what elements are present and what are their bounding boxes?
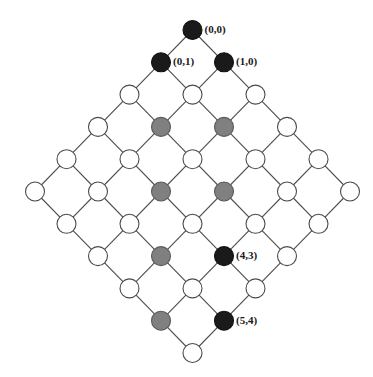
lattice-node[interactable] <box>215 182 234 201</box>
lattice-node[interactable] <box>120 214 139 233</box>
lattice-node-54[interactable] <box>215 311 234 330</box>
lattice-node-10[interactable] <box>215 53 234 72</box>
lattice-node[interactable] <box>120 150 139 169</box>
lattice-node[interactable] <box>89 117 108 136</box>
lattice-node[interactable] <box>89 182 108 201</box>
lattice-node[interactable] <box>183 214 202 233</box>
lattice-node[interactable] <box>152 117 171 136</box>
node-label: (1,0) <box>236 55 257 68</box>
lattice-node[interactable] <box>120 279 139 298</box>
lattice-node[interactable] <box>152 182 171 201</box>
node-label: (4,3) <box>236 249 257 262</box>
lattice-node-01[interactable] <box>152 53 171 72</box>
lattice-node[interactable] <box>120 85 139 104</box>
lattice-node[interactable] <box>278 117 297 136</box>
node-label: (0,1) <box>173 55 194 68</box>
lattice-canvas: (0,0)(0,1)(1,0)(4,3)(5,4) <box>0 0 373 377</box>
edge-layer <box>35 30 350 353</box>
lattice-node[interactable] <box>246 214 265 233</box>
node-label: (5,4) <box>236 314 257 327</box>
lattice-node[interactable] <box>57 150 76 169</box>
lattice-node[interactable] <box>152 247 171 266</box>
lattice-node[interactable] <box>309 214 328 233</box>
lattice-node[interactable] <box>309 150 328 169</box>
lattice-diagram: (0,0)(0,1)(1,0)(4,3)(5,4) <box>0 0 373 377</box>
lattice-node-00[interactable] <box>183 21 202 40</box>
lattice-node[interactable] <box>341 182 360 201</box>
lattice-node[interactable] <box>57 214 76 233</box>
lattice-node[interactable] <box>89 247 108 266</box>
node-layer <box>26 21 360 363</box>
lattice-node[interactable] <box>278 247 297 266</box>
lattice-node[interactable] <box>183 150 202 169</box>
lattice-node[interactable] <box>246 150 265 169</box>
lattice-node[interactable] <box>183 344 202 363</box>
lattice-node[interactable] <box>26 182 45 201</box>
lattice-node[interactable] <box>183 85 202 104</box>
lattice-node[interactable] <box>152 311 171 330</box>
lattice-node[interactable] <box>183 279 202 298</box>
lattice-node[interactable] <box>246 85 265 104</box>
node-label: (0,0) <box>205 23 226 36</box>
lattice-node[interactable] <box>215 117 234 136</box>
lattice-node[interactable] <box>246 279 265 298</box>
lattice-node[interactable] <box>278 182 297 201</box>
lattice-node-43[interactable] <box>215 247 234 266</box>
